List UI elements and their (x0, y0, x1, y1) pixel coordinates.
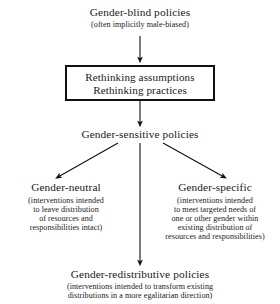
description-line: one or other gender within (150, 214, 280, 223)
node-gender-neutral-description: (interventions intendedto leave distribu… (2, 196, 130, 232)
node-gender-specific-description: (interventions intendedto meet targeted … (150, 196, 280, 241)
description-line: resources and responsibilities) (150, 232, 280, 241)
description-line: to meet targeted needs of (150, 205, 280, 214)
description-line: of resources and (2, 214, 130, 223)
description-line: to leave distribution (2, 205, 130, 214)
node-gender-neutral: Gender-neutral (interventions intendedto… (2, 181, 130, 232)
node-rethinking-line2: Rethinking practices (93, 84, 187, 96)
node-gender-redistributive-title: Gender-redistributive policies (0, 268, 280, 281)
node-gender-sensitive: Gender-sensitive policies (0, 128, 280, 141)
node-rethinking-line1: Rethinking assumptions (85, 71, 194, 83)
description-line: existing distribution of (150, 223, 280, 232)
node-gender-blind: Gender-blind policies (often implicitly … (0, 6, 280, 29)
node-gender-neutral-title: Gender-neutral (2, 181, 130, 194)
arrow-sensitive-to-neutral (58, 143, 118, 177)
node-gender-redistributive-description: (interventions intended to transform exi… (0, 282, 280, 300)
node-gender-redistributive: Gender-redistributive policies (interven… (0, 268, 280, 300)
description-line: distributions in a more egalitarian dire… (0, 291, 280, 300)
arrow-sensitive-to-specific (163, 143, 224, 177)
policy-flow-diagram: Gender-blind policies (often implicitly … (0, 0, 280, 304)
node-gender-specific: Gender-specific (interventions intendedt… (150, 181, 280, 241)
description-line: responsibilities intact) (2, 223, 130, 232)
description-line: (interventions intended to transform exi… (0, 282, 280, 291)
description-line: (interventions intended (150, 196, 280, 205)
node-gender-blind-title: Gender-blind policies (0, 6, 280, 19)
connector-arrows (0, 0, 280, 304)
description-line: (interventions intended (2, 196, 130, 205)
node-rethinking-box: Rethinking assumptions Rethinking practi… (65, 65, 215, 101)
node-gender-blind-subtitle: (often implicitly male-biased) (0, 20, 280, 29)
node-gender-specific-title: Gender-specific (150, 181, 280, 194)
node-gender-sensitive-title: Gender-sensitive policies (0, 128, 280, 141)
